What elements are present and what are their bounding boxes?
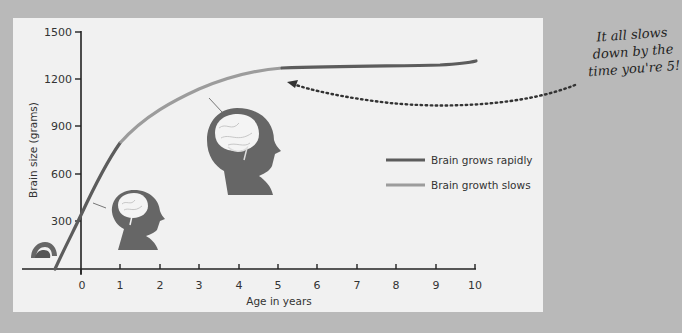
child-head-illustration [207, 98, 281, 195]
fetus-icon [31, 242, 57, 258]
x-tick-label: 0 [79, 279, 86, 292]
y-tick-label: 1200 [44, 73, 72, 86]
x-tick-label: 8 [393, 279, 400, 292]
y-tick-label: 300 [51, 215, 72, 228]
y-tick-label: 1500 [44, 26, 72, 39]
x-tick-label: 7 [354, 279, 361, 292]
x-tick-label: 5 [275, 279, 282, 292]
x-tick-label: 3 [196, 279, 203, 292]
x-tick-label: 1 [117, 279, 124, 292]
x-tick-label: 2 [157, 279, 164, 292]
y-tick-label: 600 [51, 168, 72, 181]
annotation-arrow [293, 84, 575, 105]
line-rapid-growth-early [55, 143, 120, 269]
infant-head-illustration [93, 190, 165, 250]
legend: Brain grows rapidly Brain growth slows [386, 154, 533, 191]
y-tick-labels: 1500 1200 900 600 300 [44, 26, 72, 228]
legend-label-slow: Brain growth slows [431, 179, 531, 191]
x-axis-title: Age in years [246, 295, 311, 307]
annotation-text: It all slows down by the time you're 5! [576, 22, 682, 81]
x-tick-label: 6 [314, 279, 321, 292]
x-tick-label: 4 [236, 279, 243, 292]
x-tick-labels: 0 1 2 3 4 5 6 7 8 9 10 [79, 279, 483, 292]
x-tick-label: 10 [468, 279, 482, 292]
line-rapid-growth-late [282, 61, 476, 68]
arrowhead-icon [287, 80, 298, 88]
x-tick-label: 9 [433, 279, 440, 292]
y-tick-label: 900 [51, 120, 72, 133]
y-axis-title: Brain size (grams) [27, 102, 39, 198]
legend-label-rapid: Brain grows rapidly [431, 154, 533, 166]
y-ticks [75, 32, 81, 221]
